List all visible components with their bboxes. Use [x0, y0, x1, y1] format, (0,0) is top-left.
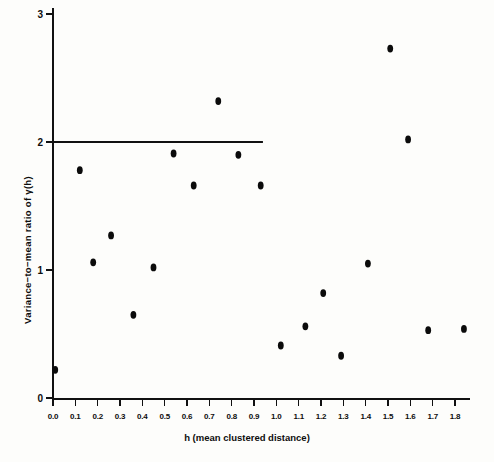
- x-tick-label: 1.4: [360, 412, 371, 421]
- data-point: [320, 289, 326, 297]
- y-tick-label: 2: [37, 137, 43, 148]
- x-tick-label: 1.8: [450, 412, 461, 421]
- data-point: [278, 342, 284, 350]
- x-tick-label: 1.5: [383, 412, 394, 421]
- data-point: [52, 366, 58, 374]
- x-tick-marks: [53, 399, 455, 406]
- x-tick-labels: 0.00.10.20.30.40.50.60.70.80.91.01.11.21…: [48, 412, 461, 421]
- data-point: [425, 326, 431, 334]
- y-tick-label: 3: [37, 9, 43, 20]
- x-tick-label: 0.9: [249, 412, 260, 421]
- x-tick-label: 1.0: [271, 412, 282, 421]
- data-point: [108, 232, 114, 240]
- data-point: [235, 151, 241, 159]
- data-point: [151, 264, 157, 272]
- data-point: [77, 166, 83, 174]
- x-tick-label: 0.8: [226, 412, 237, 421]
- x-tick-label: 1.6: [405, 412, 416, 421]
- x-tick-label: 1.7: [427, 412, 438, 421]
- data-point: [387, 45, 393, 53]
- x-tick-label: 0.2: [92, 412, 103, 421]
- x-tick-label: 0.7: [204, 412, 215, 421]
- x-tick-label: 0.6: [182, 412, 193, 421]
- x-axis-label: h (mean clustered distance): [184, 432, 310, 443]
- scatter-plot-figure: Variance−to−mean ratio of γ(h) 0123 0.00…: [0, 0, 494, 462]
- data-point: [215, 97, 221, 105]
- data-point: [461, 325, 467, 333]
- data-point: [131, 311, 137, 319]
- x-tick-label: 1.2: [316, 412, 327, 421]
- y-axis-group: 0123: [37, 8, 53, 404]
- x-axis-group: 0.00.10.20.30.40.50.60.70.80.91.01.11.21…: [48, 399, 470, 421]
- data-point: [258, 182, 264, 190]
- x-tick-label: 0.3: [115, 412, 126, 421]
- x-tick-label: 0.4: [137, 412, 148, 421]
- x-tick-label: 0.0: [48, 412, 59, 421]
- data-point: [302, 322, 308, 330]
- y-tick-label: 0: [37, 393, 43, 404]
- y-axis-label-group: Variance−to−mean ratio of γ(h): [22, 176, 33, 324]
- y-tick-marks: [46, 14, 53, 398]
- data-point: [90, 258, 96, 266]
- data-point: [191, 182, 197, 190]
- data-point: [338, 352, 344, 360]
- data-point: [365, 260, 371, 268]
- x-tick-label: 1.3: [338, 412, 349, 421]
- y-tick-labels: 0123: [37, 9, 43, 404]
- y-axis-label: Variance−to−mean ratio of γ(h): [22, 176, 33, 324]
- data-point: [405, 136, 411, 144]
- x-tick-label: 1.1: [293, 412, 304, 421]
- x-tick-label: 0.5: [159, 412, 170, 421]
- chart-canvas: Variance−to−mean ratio of γ(h) 0123 0.00…: [0, 0, 494, 462]
- x-tick-label: 0.1: [70, 412, 81, 421]
- data-point-group: [52, 45, 466, 374]
- y-tick-label: 1: [37, 265, 43, 276]
- data-point: [171, 150, 177, 158]
